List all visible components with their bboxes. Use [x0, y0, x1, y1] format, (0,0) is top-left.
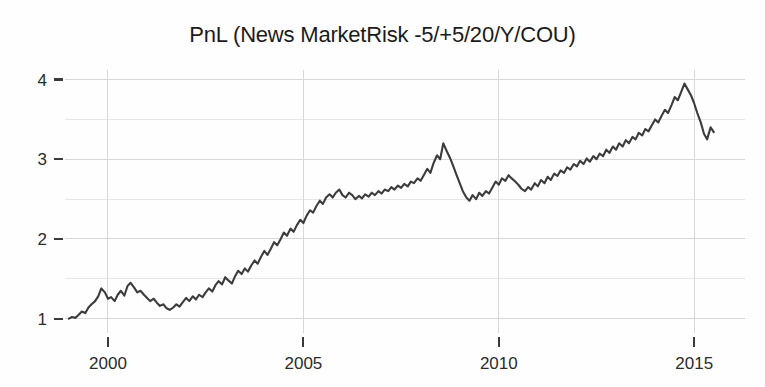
series-line-pnl — [69, 84, 714, 319]
y-tick-label: 1 — [38, 310, 47, 329]
y-tick-label: 3 — [38, 150, 47, 169]
y-tick-label: 4 — [38, 71, 47, 90]
x-tick-label: 2010 — [480, 354, 518, 373]
x-tick-label: 2015 — [675, 354, 713, 373]
x-tick-label: 2000 — [89, 354, 127, 373]
chart-plot-area: 12342000200520102015 — [0, 0, 765, 387]
axis-tick-labels: 12342000200520102015 — [38, 71, 714, 373]
grid-lines — [65, 70, 745, 333]
x-tick-label: 2005 — [284, 354, 322, 373]
series-pnl — [69, 84, 714, 319]
y-tick-label: 2 — [38, 230, 47, 249]
chart-figure: PnL (News MarketRisk -5/+5/20/Y/COU) 123… — [0, 0, 765, 387]
